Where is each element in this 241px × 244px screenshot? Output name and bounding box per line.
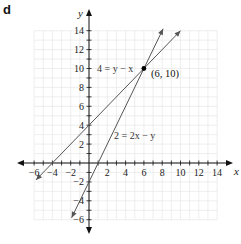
x-tick-label: 2 xyxy=(105,167,110,178)
x-tick-label: 8 xyxy=(160,167,165,178)
y-tick-label: 6 xyxy=(79,101,84,112)
y-axis-label: y xyxy=(77,7,83,19)
x-tick-label: 14 xyxy=(212,167,222,178)
x-tick-label: 12 xyxy=(194,167,204,178)
arrow-left-icon xyxy=(17,160,24,166)
axes xyxy=(17,9,233,234)
x-axis-label: x xyxy=(233,165,239,177)
y-tick-label: 12 xyxy=(74,44,84,55)
x-tick-label: 10 xyxy=(176,167,186,178)
equation-label-2: 2 = 2x − y xyxy=(114,130,155,141)
y-tick-label: 4 xyxy=(79,120,84,131)
x-tick-label: 4 xyxy=(123,167,128,178)
equation-label-1: 4 = y − x xyxy=(97,63,133,74)
y-tick-label: 14 xyxy=(74,25,84,36)
y-tick-label: −4 xyxy=(73,195,84,206)
grid xyxy=(34,31,217,220)
y-tick-label: 2 xyxy=(79,139,84,150)
y-tick-label: −6 xyxy=(73,214,84,225)
y-tick-label: 10 xyxy=(74,63,84,74)
y-tick-label: −2 xyxy=(73,176,84,187)
arrow-right-icon xyxy=(226,160,233,166)
y-tick-label: 8 xyxy=(79,82,84,93)
series-line-2 xyxy=(72,29,164,218)
coordinate-plane: −6−4−224681012141412108642−2−4−6xy4 = y … xyxy=(0,0,241,244)
x-tick-label: −4 xyxy=(47,167,58,178)
intersection-label: (6, 10) xyxy=(151,68,179,80)
arrow-down-icon xyxy=(86,227,92,234)
x-tick-label: 6 xyxy=(141,167,146,178)
intersection-point xyxy=(142,66,147,71)
series-line-1 xyxy=(36,31,181,180)
x-tick-label: −6 xyxy=(29,167,40,178)
plot-lines xyxy=(36,29,181,218)
arrow-up-icon xyxy=(86,9,92,16)
